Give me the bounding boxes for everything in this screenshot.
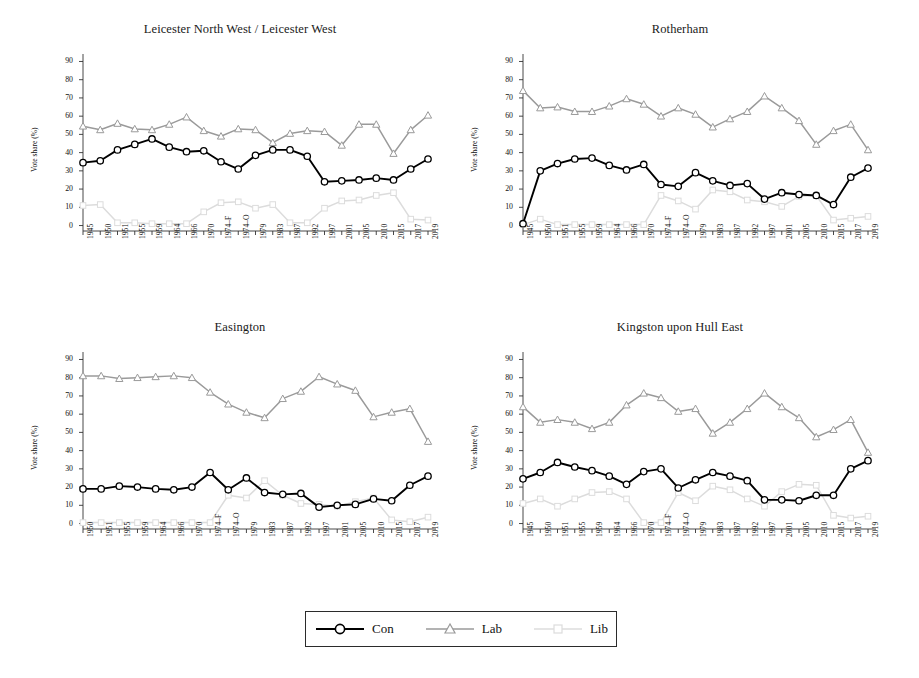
data-point: [693, 206, 699, 212]
data-point: [391, 190, 397, 196]
x-tick-label: 1966: [630, 522, 639, 537]
x-tick-label: 2005: [359, 522, 368, 537]
data-point: [114, 120, 121, 126]
data-point: [572, 156, 578, 162]
data-point: [589, 222, 595, 228]
data-point: [623, 167, 629, 173]
x-tick-label: 1964: [173, 224, 182, 239]
data-point: [710, 178, 716, 184]
data-point: [710, 187, 716, 193]
x-tick-label: 1955: [578, 522, 587, 537]
x-tick-label: 2010: [380, 224, 389, 239]
data-point: [848, 174, 854, 180]
legend-item-lib[interactable]: Lib: [532, 621, 608, 637]
x-tick-label: 1964: [159, 522, 168, 537]
y-tick-label: 30: [45, 166, 73, 175]
y-tick-label: 90: [45, 56, 73, 65]
data-point: [207, 520, 213, 526]
data-point: [322, 205, 328, 211]
x-tick-label: 1997: [768, 224, 777, 239]
y-tick-label: 70: [485, 93, 513, 102]
y-tick-label: 40: [485, 148, 513, 157]
data-point: [116, 483, 122, 489]
data-point: [201, 209, 207, 215]
data-point: [779, 190, 785, 196]
data-point: [813, 482, 819, 488]
chart-panel-kingston-upon-hull-east: Kingston upon Hull EastVote share (%)010…: [460, 320, 900, 605]
series-lib: [520, 482, 871, 526]
chart-title: Rotherham: [460, 22, 900, 37]
x-tick-label: 1951: [561, 522, 570, 537]
data-point: [675, 104, 682, 110]
data-point: [356, 197, 362, 203]
y-tick-label: 60: [485, 111, 513, 120]
x-tick-label: 1974–F: [224, 216, 233, 239]
data-point: [389, 517, 395, 523]
plot-area: [20, 40, 440, 239]
data-point: [865, 165, 871, 171]
data-point: [149, 136, 155, 142]
x-tick-label: 1987: [733, 522, 742, 537]
x-tick-label: 2019: [431, 522, 440, 537]
data-point: [114, 147, 120, 153]
data-point: [149, 221, 155, 227]
data-point: [152, 486, 158, 492]
x-tick-label: 1959: [155, 224, 164, 239]
y-tick-label: 70: [45, 93, 73, 102]
data-point: [171, 487, 177, 493]
data-point: [407, 482, 413, 488]
legend-item-lab[interactable]: Lab: [424, 621, 532, 637]
y-tick-label: 40: [45, 446, 73, 455]
x-tick-label: 2015: [837, 522, 846, 537]
x-tick-label: 1959: [141, 522, 150, 537]
data-point: [658, 181, 664, 187]
plot-area: [460, 338, 880, 537]
y-tick-label: 30: [485, 464, 513, 473]
data-point: [270, 147, 276, 153]
data-point: [406, 405, 413, 411]
data-point: [166, 144, 172, 150]
data-point: [339, 198, 345, 204]
x-tick-label: 1992: [751, 522, 760, 537]
series-con: [80, 136, 431, 185]
data-point: [425, 156, 431, 162]
data-point: [589, 155, 595, 161]
x-tick-label: 1974–O: [242, 215, 251, 239]
data-point: [606, 162, 612, 168]
data-point: [796, 482, 802, 488]
x-tick-label: 2005: [802, 224, 811, 239]
legend-item-con[interactable]: Con: [314, 621, 424, 637]
data-point: [606, 222, 612, 228]
data-point: [97, 158, 103, 164]
data-point: [572, 464, 578, 470]
data-point: [189, 484, 195, 490]
data-point: [261, 489, 267, 495]
data-point: [321, 179, 327, 185]
x-tick-label: 2017: [854, 224, 863, 239]
y-tick-label: 50: [485, 427, 513, 436]
data-point: [356, 177, 362, 183]
data-point: [183, 113, 190, 119]
y-tick-label: 10: [485, 202, 513, 211]
y-tick-label: 0: [45, 519, 73, 528]
y-tick-label: 50: [45, 129, 73, 138]
plot-area: [20, 338, 440, 537]
x-tick-label: 2019: [871, 522, 880, 537]
data-point: [298, 490, 304, 496]
data-point: [606, 489, 612, 495]
x-tick-label: 1945: [86, 224, 95, 239]
data-point: [153, 520, 159, 526]
y-tick-label: 60: [45, 111, 73, 120]
data-point: [537, 216, 543, 222]
data-point: [831, 513, 837, 519]
plot-area: [460, 40, 880, 239]
y-tick-label: 80: [485, 373, 513, 382]
data-point: [762, 503, 768, 509]
data-point: [184, 221, 190, 227]
data-point: [79, 123, 86, 129]
chart-legend: ConLabLib: [305, 611, 617, 647]
data-point: [641, 468, 647, 474]
data-point: [744, 197, 750, 203]
data-point: [710, 469, 716, 475]
y-tick-label: 90: [485, 354, 513, 363]
